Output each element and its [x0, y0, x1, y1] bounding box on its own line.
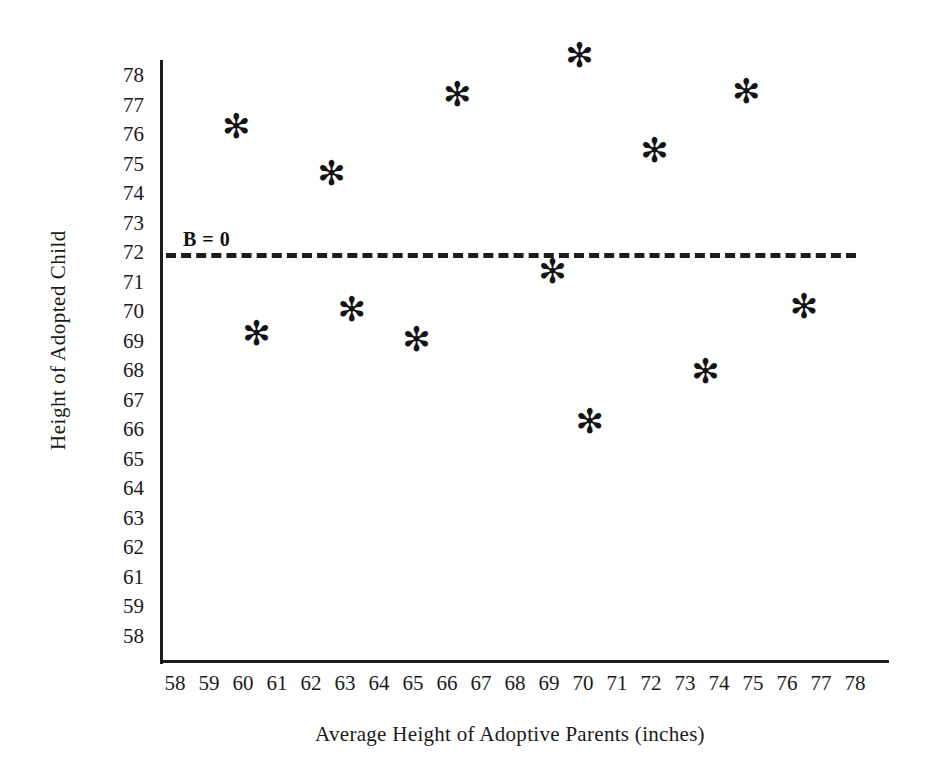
- x-axis-title: Average Height of Adoptive Parents (inch…: [160, 722, 860, 747]
- data-point-marker: ✻: [537, 256, 567, 286]
- data-point-marker: ✻: [316, 158, 346, 188]
- x-axis-tick-labels: 5859606162636465666768697071727374757677…: [0, 670, 935, 704]
- data-point-marker: ✻: [789, 291, 819, 321]
- data-point-marker: ✻: [575, 406, 605, 436]
- data-point-series: ✻✻✻✻✻✻✻✻✻✻✻✻✻: [0, 0, 935, 780]
- x-tick-label: 78: [835, 670, 875, 696]
- data-point-marker: ✻: [221, 111, 251, 141]
- data-point-marker: ✻: [401, 324, 431, 354]
- scatter-plot-figure: Height of Adopted Child 7877767574737271…: [0, 0, 935, 780]
- data-point-marker: ✻: [565, 40, 595, 70]
- data-point-marker: ✻: [242, 318, 272, 348]
- data-point-marker: ✻: [337, 294, 367, 324]
- data-point-marker: ✻: [690, 356, 720, 386]
- data-point-marker: ✻: [731, 76, 761, 106]
- data-point-marker: ✻: [442, 79, 472, 109]
- data-point-marker: ✻: [639, 135, 669, 165]
